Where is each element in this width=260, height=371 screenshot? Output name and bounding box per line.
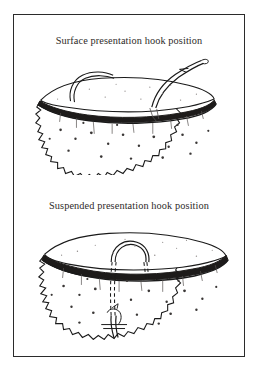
sponge-block-surface-hook-svg [14, 47, 244, 175]
sponge-block-top-face [45, 233, 226, 270]
figure-page: Surface presentation hook position [0, 0, 260, 371]
panel-suspended: Suspended presentation hook position [14, 189, 244, 355]
panel-suspended-illustration [14, 212, 244, 340]
sponge-block-suspended-hook-svg [14, 212, 244, 340]
panel-surface: Surface presentation hook position [14, 21, 244, 189]
panel-suspended-caption: Suspended presentation hook position [14, 199, 244, 212]
sponge-block-top-face [41, 78, 214, 112]
panel-surface-illustration [14, 47, 244, 175]
figure-frame: Surface presentation hook position [13, 14, 245, 357]
panel-surface-caption: Surface presentation hook position [14, 34, 244, 47]
